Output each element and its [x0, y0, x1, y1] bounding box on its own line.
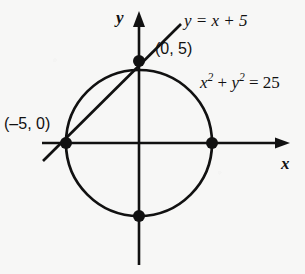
- point-label-top: (0, 5): [155, 41, 192, 57]
- y-axis-arrowhead: [133, 11, 145, 27]
- circle-eq-y: y: [231, 73, 239, 92]
- x-axis-arrowhead: [275, 138, 290, 149]
- coordinate-plane-svg: [0, 0, 305, 274]
- point-label-left: (–5, 0): [4, 116, 50, 132]
- math-figure: y x y = x + 5 x2 + y2 = 25 (0, 5) (–5, 0…: [0, 0, 305, 274]
- circle-eq-rhs: = 25: [245, 73, 280, 92]
- point-marker-top: [133, 55, 145, 67]
- circle-equation-label: x2 + y2 = 25: [200, 72, 280, 91]
- circle-eq-plus: +: [213, 73, 231, 92]
- x-axis-label: x: [281, 155, 290, 172]
- point-marker-left: [60, 137, 72, 149]
- line-equation-label: y = x + 5: [184, 12, 248, 29]
- point-marker-bottom: [133, 210, 145, 222]
- circle-eq-x: x: [200, 73, 208, 92]
- point-marker-right: [206, 137, 218, 149]
- y-axis-label: y: [116, 9, 124, 26]
